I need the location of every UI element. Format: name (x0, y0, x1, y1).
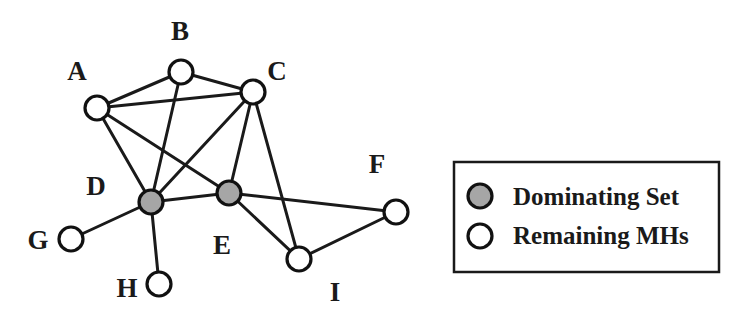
node-g (59, 227, 83, 251)
node-i (287, 247, 311, 271)
node-label-a: A (67, 56, 87, 86)
node-b (169, 60, 193, 84)
graph-edges (71, 72, 396, 284)
node-label-h: H (116, 273, 137, 303)
legend-dominating-label: Dominating Set (513, 183, 680, 210)
node-label-b: B (171, 16, 189, 46)
dominating-set-diagram: ABCDEFGHI Dominating Set Remaining MHs (0, 0, 739, 313)
edge-b-d (151, 72, 181, 202)
legend-remaining-label: Remaining MHs (513, 222, 689, 249)
edge-c-e (229, 92, 253, 193)
node-e (217, 181, 241, 205)
node-d (139, 190, 163, 214)
node-f (384, 200, 408, 224)
node-label-d: D (86, 171, 106, 201)
legend-remaining-marker (468, 224, 492, 248)
edge-c-i (253, 92, 299, 259)
node-label-i: I (330, 277, 341, 307)
node-h (147, 272, 171, 296)
node-label-c: C (267, 56, 287, 86)
node-label-e: E (213, 230, 231, 260)
edge-i-f (299, 212, 396, 259)
node-a (85, 96, 109, 120)
edge-e-f (229, 193, 396, 212)
node-label-g: G (27, 225, 48, 255)
legend: Dominating Set Remaining MHs (454, 162, 719, 272)
node-c (241, 80, 265, 104)
legend-box (454, 162, 719, 272)
node-label-f: F (369, 149, 386, 179)
node-labels: ABCDEFGHI (27, 16, 385, 307)
legend-dominating-marker (468, 184, 492, 208)
